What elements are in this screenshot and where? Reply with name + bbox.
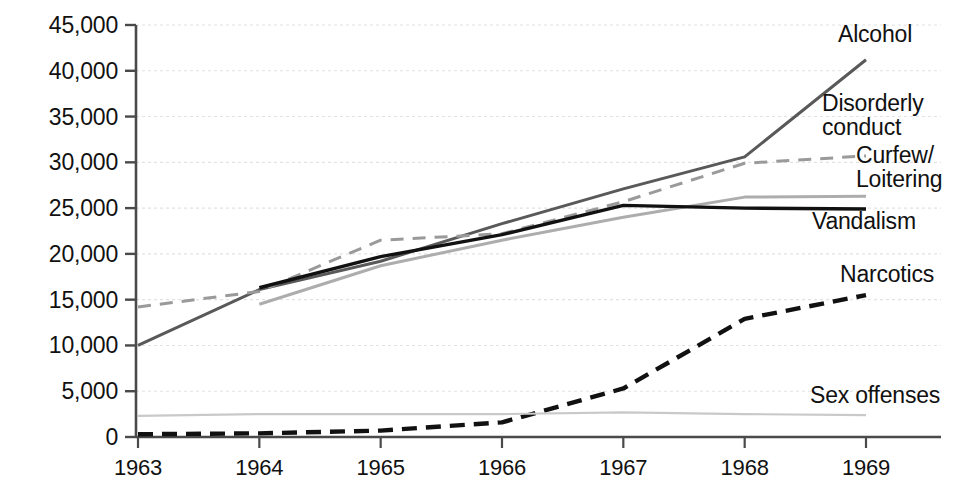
x-axis-tick-label: 1963	[88, 457, 188, 479]
series-label-curfew-loitering: Curfew/ Loitering	[856, 144, 942, 192]
series-label-narcotics: Narcotics	[840, 262, 934, 287]
line-chart: 45,00040,00035,00030,00025,00020,00015,0…	[0, 0, 953, 481]
series-label-disorderly-conduct: Disorderly conduct	[822, 92, 924, 140]
y-axis-ticks	[125, 25, 136, 437]
y-axis-tick-label: 5,000	[0, 380, 118, 403]
y-axis-tick-label: 15,000	[0, 289, 118, 312]
y-axis-tick-label: 35,000	[0, 106, 118, 129]
series-line-sex-offenses	[138, 412, 866, 416]
series-label-disorderly-conduct-line1: Disorderly	[822, 92, 924, 116]
y-axis-tick-label: 0	[0, 426, 118, 449]
y-axis-tick-label: 10,000	[0, 334, 118, 357]
x-axis-ticks	[138, 437, 866, 448]
series-label-disorderly-conduct-line2: conduct	[822, 116, 924, 140]
y-axis-tick-label: 20,000	[0, 243, 118, 266]
series-label-sex-offenses: Sex offenses	[810, 383, 940, 408]
x-axis-tick-label: 1969	[816, 457, 916, 479]
series-lines	[138, 60, 866, 434]
series-line-curfew-loitering	[138, 156, 866, 307]
series-line-disorderly-conduct	[259, 196, 866, 304]
series-label-alcohol: Alcohol	[838, 22, 912, 47]
x-axis-tick-label: 1966	[452, 457, 552, 479]
series-label-curfew-loitering-line2: Loitering	[856, 168, 942, 192]
y-axis-tick-label: 45,000	[0, 14, 118, 37]
y-axis-tick-label: 25,000	[0, 197, 118, 220]
y-axis-tick-label: 30,000	[0, 151, 118, 174]
chart-plot-area	[0, 0, 953, 481]
x-axis-tick-label: 1968	[695, 457, 795, 479]
x-axis-tick-label: 1964	[209, 457, 309, 479]
series-label-curfew-loitering-line1: Curfew/	[856, 144, 942, 168]
y-axis-tick-label: 40,000	[0, 60, 118, 83]
x-axis-tick-label: 1967	[573, 457, 673, 479]
series-line-alcohol	[138, 60, 866, 346]
x-axis-tick-label: 1965	[331, 457, 431, 479]
series-label-vandalism: Vandalism	[812, 209, 916, 234]
